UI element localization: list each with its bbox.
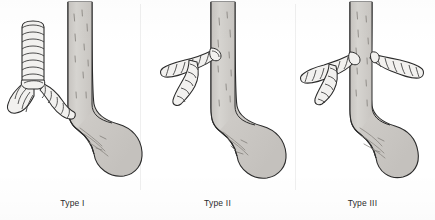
illustration-type-1 bbox=[0, 0, 145, 200]
esophagus-stomach-type-2 bbox=[211, 2, 286, 178]
trachea-tube bbox=[22, 21, 44, 86]
esophagus-stomach-type-3 bbox=[350, 2, 418, 178]
panel-type-3: Type III bbox=[290, 0, 435, 220]
esophagus-stomach-type-1 bbox=[68, 2, 142, 176]
esophagus-body bbox=[350, 2, 372, 132]
caption-type-1: Type I bbox=[0, 198, 145, 208]
panel-type-1: Type I bbox=[0, 0, 145, 220]
trachea-type-1 bbox=[22, 21, 44, 86]
fistula-insertion-right-type-3 bbox=[371, 52, 380, 63]
caption-type-2: Type II bbox=[145, 198, 290, 208]
esophagus-right-wall bbox=[92, 2, 112, 123]
panel-type-2: Type II bbox=[145, 0, 290, 220]
carina-type-1 bbox=[21, 80, 45, 89]
esophagus-body bbox=[211, 2, 235, 130]
esophagus-right-wall bbox=[235, 2, 255, 125]
illustration-type-3 bbox=[290, 0, 435, 200]
caption-type-3: Type III bbox=[290, 198, 435, 208]
figure-tracheobronchial-types: Type I bbox=[0, 0, 435, 220]
illustration-type-2 bbox=[145, 0, 290, 200]
